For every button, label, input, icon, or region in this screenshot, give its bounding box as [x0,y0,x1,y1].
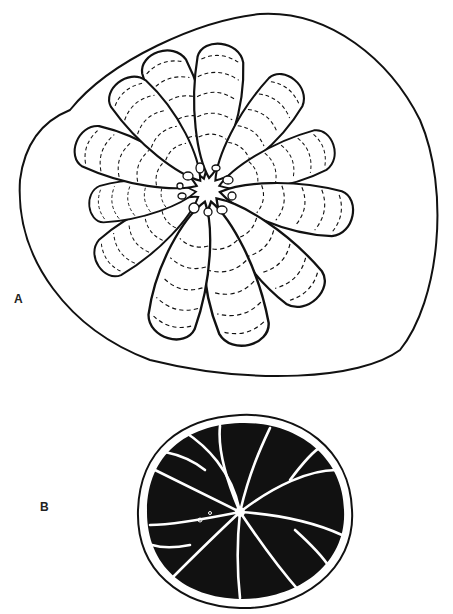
figure: A B [0,0,453,614]
panel-label-b: B [40,500,49,514]
panel-label-a: A [14,292,23,306]
figure-b-drawing [0,0,453,614]
